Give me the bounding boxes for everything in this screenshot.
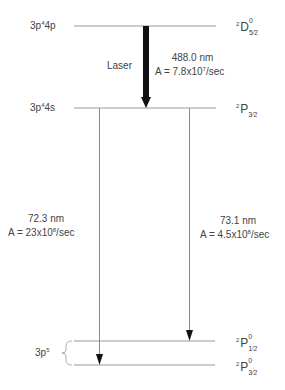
- transition-arrow-72nm-icon: [96, 108, 103, 365]
- config-sup: 5: [46, 347, 49, 353]
- term-symbol-2P0-1-2: 2P01⁄2: [236, 337, 260, 351]
- config-base: 3p: [35, 347, 46, 358]
- term-symbol-2P0-3-2: 2P03⁄2: [236, 361, 260, 375]
- rate-prefix: A = 23x10: [8, 227, 53, 238]
- laser-rate: A = 7.8x107/sec: [155, 66, 224, 78]
- config-label-3p4-4p: 3p44p: [30, 20, 56, 32]
- config-label-3p5: 3p5: [35, 347, 49, 359]
- transition-72nm-rate: A = 23x108/sec: [8, 227, 74, 239]
- term-letter: P: [240, 102, 248, 116]
- term-j: 3⁄2: [248, 367, 257, 379]
- config-base: 3p: [30, 20, 41, 31]
- rate-suffix: /sec: [56, 227, 74, 238]
- laser-label: Laser: [107, 60, 132, 72]
- config-tail: 4s: [44, 102, 55, 113]
- term-multiplicity: 2: [236, 361, 239, 367]
- transition-73nm-rate: A = 4.5x108/sec: [200, 229, 269, 241]
- term-j: 1⁄2: [248, 343, 257, 355]
- ground-config-brace-icon: [62, 341, 72, 365]
- config-label-3p4-4s: 3p44s: [30, 102, 55, 114]
- term-parity: 0: [249, 15, 253, 27]
- term-j: 5⁄2: [249, 27, 258, 39]
- config-base: 3p: [30, 102, 41, 113]
- term-j: 3⁄2: [248, 109, 257, 121]
- rate-suffix: /sec: [206, 66, 224, 77]
- transition-72nm-wavelength: 72.3 nm: [6, 213, 86, 225]
- transition-73nm-wavelength: 73.1 nm: [198, 215, 278, 227]
- term-symbol-2P3-2: 2P3⁄2: [236, 103, 260, 117]
- rate-prefix: A = 7.8x10: [155, 66, 203, 77]
- config-tail: 4p: [44, 20, 55, 31]
- term-multiplicity: 2: [236, 337, 239, 343]
- transition-arrow-73nm-icon: [186, 108, 193, 341]
- laser-wavelength: 488.0 nm: [155, 52, 230, 64]
- term-multiplicity: 2: [236, 21, 239, 27]
- energy-level-diagram: [0, 0, 285, 390]
- term-letter: P: [240, 336, 248, 350]
- term-parity: 0: [248, 331, 252, 343]
- rate-prefix: A = 4.5x10: [200, 229, 248, 240]
- term-multiplicity: 2: [236, 103, 239, 109]
- term-parity: 0: [248, 355, 252, 367]
- laser-arrow-icon: [141, 26, 151, 108]
- term-symbol-2D5-2: 2D05⁄2: [236, 21, 261, 35]
- rate-suffix: /sec: [251, 229, 269, 240]
- term-letter: P: [240, 360, 248, 374]
- term-letter: D: [240, 20, 249, 34]
